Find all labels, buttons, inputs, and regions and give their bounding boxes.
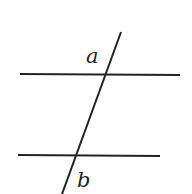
- top-parallel-line: [20, 74, 180, 75]
- angle-label-b: b: [77, 168, 90, 192]
- angle-label-a: a: [86, 44, 99, 68]
- parallel-lines-diagram: a b: [0, 0, 192, 194]
- bottom-parallel-line: [18, 155, 160, 156]
